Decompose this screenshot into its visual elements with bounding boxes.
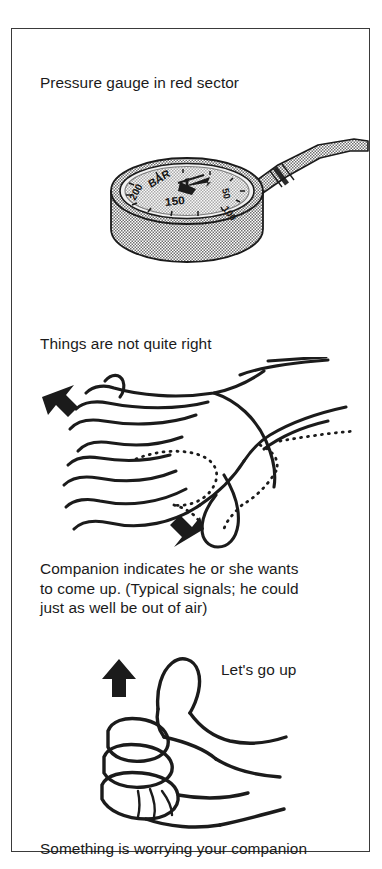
caption-things-not-right: Things are not quite right bbox=[40, 334, 360, 354]
figure-frame: Pressure gauge in red sector bbox=[11, 28, 370, 852]
illustration-hand-wobble bbox=[28, 357, 378, 562]
finger-fold-1 bbox=[108, 719, 168, 762]
gauge-label-50: 50 bbox=[220, 187, 233, 200]
arrow-rock-down-left bbox=[170, 515, 204, 547]
gauge-body bbox=[111, 158, 263, 262]
gauge-hose bbox=[250, 139, 368, 195]
caption-summary-worry: Something is worrying your companion bbox=[40, 839, 370, 859]
arrow-ascend-up bbox=[102, 659, 136, 697]
caption-pressure-gauge: Pressure gauge in red sector bbox=[40, 73, 360, 93]
illustration-thumbs-up bbox=[72, 657, 302, 835]
gauge-label-150: 150 bbox=[164, 194, 185, 208]
caption-signal-explanation: Companion indicates he or she wants to c… bbox=[40, 559, 370, 618]
thumb-outline bbox=[158, 659, 200, 713]
hand-motion-dotted-outline bbox=[136, 431, 356, 529]
illustration-pressure-gauge: BAR 200 150 100 50 bbox=[82, 125, 372, 275]
arrow-rock-up-left bbox=[42, 385, 78, 417]
finger-lower-1 bbox=[68, 455, 170, 465]
figure-page: Pressure gauge in red sector bbox=[0, 0, 382, 869]
finger-fold-2 bbox=[104, 745, 172, 788]
